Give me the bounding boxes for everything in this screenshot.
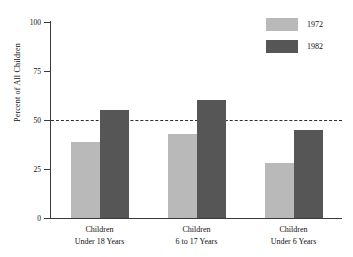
legend-swatch-1972 bbox=[266, 18, 298, 31]
category-label-line1: Children bbox=[86, 225, 114, 234]
y-tick-label: 75 bbox=[1, 67, 41, 76]
bar-chart: Percent of All Children 0255075100 Child… bbox=[0, 0, 353, 257]
y-tick-mark bbox=[44, 22, 51, 23]
y-tick-mark bbox=[44, 71, 51, 72]
legend: 19721982 bbox=[266, 18, 323, 62]
bar-1982-1 bbox=[100, 110, 129, 218]
bar-1982-3 bbox=[294, 130, 323, 218]
category-label-line1: Children bbox=[280, 225, 308, 234]
y-tick-label: 50 bbox=[1, 116, 41, 125]
x-category-label: ChildrenUnder 6 Years bbox=[234, 224, 353, 247]
y-tick-mark bbox=[44, 120, 51, 121]
bar-1972-2 bbox=[168, 134, 197, 218]
y-tick-mark bbox=[44, 218, 51, 219]
x-axis-line bbox=[51, 218, 342, 219]
bar-1982-2 bbox=[197, 100, 226, 218]
y-tick-label: 25 bbox=[1, 165, 41, 174]
bar-1972-1 bbox=[71, 142, 100, 218]
y-tick-label: 100 bbox=[1, 18, 41, 27]
legend-swatch-1982 bbox=[266, 40, 298, 53]
y-tick-label: 0 bbox=[1, 214, 41, 223]
category-label-line2: Under 6 Years bbox=[234, 236, 353, 248]
category-label-line1: Children bbox=[183, 225, 211, 234]
y-tick-mark bbox=[44, 169, 51, 170]
legend-item-1972: 1972 bbox=[266, 18, 323, 31]
bar-1972-3 bbox=[265, 163, 294, 218]
legend-label-1982: 1982 bbox=[307, 42, 323, 51]
legend-item-1982: 1982 bbox=[266, 40, 323, 53]
legend-label-1972: 1972 bbox=[307, 20, 323, 29]
